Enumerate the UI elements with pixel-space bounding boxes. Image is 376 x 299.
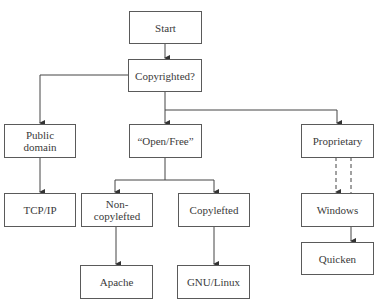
node-windows: Windows <box>301 193 374 227</box>
edge-copyrighted-proprietary <box>165 110 337 123</box>
node-open-free: “Open/Free” <box>129 124 202 158</box>
node-copylefted: Copylefted <box>178 193 250 227</box>
node-gnu-linux: GNU/Linux <box>177 265 250 299</box>
edge-open-free-non-copylefted <box>115 180 165 192</box>
node-proprietary: Proprietary <box>301 124 374 158</box>
node-start: Start <box>129 11 202 44</box>
edge-open-free-copylefted <box>165 180 214 192</box>
node-tcpip: TCP/IP <box>4 193 76 227</box>
node-non-copylefted: Non- copylefted <box>81 193 153 227</box>
edge-copyrighted-public-domain <box>40 75 128 123</box>
node-copyrighted: Copyrighted? <box>128 59 202 92</box>
node-public-domain: Public domain <box>4 124 76 158</box>
node-apache: Apache <box>80 265 153 299</box>
node-quicken: Quicken <box>301 242 374 275</box>
